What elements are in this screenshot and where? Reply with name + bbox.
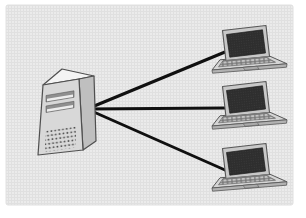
laptop-screen <box>227 86 266 113</box>
server-icon <box>38 69 96 155</box>
laptop-screen <box>227 148 266 175</box>
connection-line-server-laptop-2 <box>87 108 225 109</box>
laptop-screen <box>227 30 266 57</box>
network-diagram <box>0 0 306 218</box>
